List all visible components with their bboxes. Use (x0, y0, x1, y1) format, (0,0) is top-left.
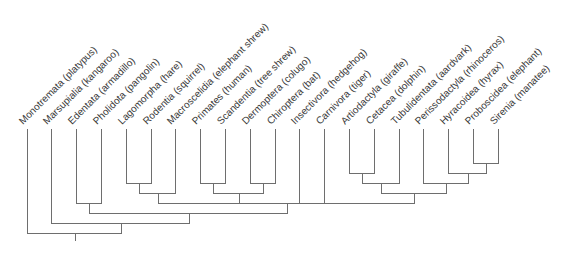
tree-branches (28, 129, 499, 241)
phylogenetic-tree: Monotremata (platypus)Marsupialia (kanga… (0, 0, 570, 255)
leaf-labels: Monotremata (platypus)Marsupialia (kanga… (17, 21, 552, 127)
